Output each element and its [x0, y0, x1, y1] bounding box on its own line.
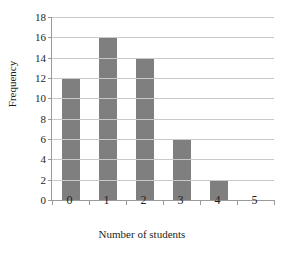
y-tick-mark — [48, 78, 52, 79]
x-axis-tick-label: 2 — [125, 193, 162, 207]
y-axis-tick-label: 0 — [20, 195, 46, 205]
x-axis-tick-label: 1 — [88, 193, 125, 207]
bar-slot — [163, 17, 200, 200]
y-axis-title: Frequency — [6, 34, 18, 134]
y-tick-mark — [48, 139, 52, 140]
x-axis-tick-label: 0 — [51, 193, 88, 207]
bar-chart: in 50 households Frequency Number of stu… — [0, 0, 284, 254]
y-axis-tick-label: 10 — [20, 93, 46, 103]
gridline — [52, 159, 274, 160]
bar-series — [52, 17, 274, 200]
x-tick-mark — [274, 200, 275, 205]
gridline — [52, 98, 274, 99]
y-axis-tick-label: 14 — [20, 53, 46, 63]
y-axis-tick-label: 2 — [20, 175, 46, 185]
y-tick-mark — [48, 17, 52, 18]
gridline — [52, 17, 274, 18]
bar[interactable] — [173, 139, 191, 200]
y-axis-tick-label: 18 — [20, 12, 46, 22]
y-tick-mark — [48, 180, 52, 181]
y-tick-mark — [48, 159, 52, 160]
bar-slot — [52, 17, 89, 200]
bar-slot — [89, 17, 126, 200]
bar-slot — [126, 17, 163, 200]
x-axis-tick-label: 5 — [236, 193, 273, 207]
y-axis-tick-label: 16 — [20, 32, 46, 42]
bar-slot — [237, 17, 274, 200]
y-axis-tick-label: 6 — [20, 134, 46, 144]
y-tick-mark — [48, 119, 52, 120]
gridline — [52, 58, 274, 59]
gridline — [52, 37, 274, 38]
y-axis-tick-label: 4 — [20, 154, 46, 164]
plot-area — [51, 17, 274, 200]
y-tick-mark — [48, 98, 52, 99]
x-axis-title: Number of students — [0, 228, 284, 240]
bar[interactable] — [136, 58, 154, 200]
y-axis-tick-label: 8 — [20, 114, 46, 124]
y-tick-mark — [48, 58, 52, 59]
x-axis-tick-label: 4 — [199, 193, 236, 207]
gridline — [52, 180, 274, 181]
gridline — [52, 119, 274, 120]
chart-title: in 50 households — [0, 0, 284, 4]
y-tick-mark — [48, 37, 52, 38]
gridline — [52, 139, 274, 140]
bar-slot — [200, 17, 237, 200]
x-axis-tick-label: 3 — [162, 193, 199, 207]
gridline — [52, 78, 274, 79]
y-axis-tick-label: 12 — [20, 73, 46, 83]
